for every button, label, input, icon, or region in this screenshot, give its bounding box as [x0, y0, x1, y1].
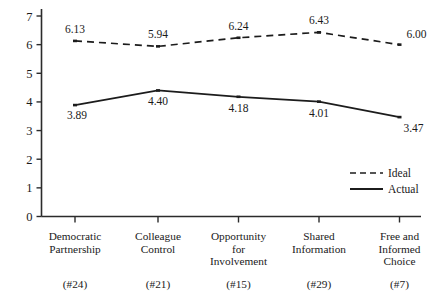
data-point: [398, 43, 402, 46]
data-point: [237, 95, 241, 98]
data-label: 3.89: [67, 109, 87, 121]
y-tick-label: 3: [26, 124, 32, 138]
data-point: [73, 104, 77, 107]
category-count: (#7): [390, 278, 409, 291]
category-label: Involvement: [210, 255, 268, 267]
category-label: Information: [292, 243, 346, 255]
y-tick-label: 7: [26, 10, 32, 24]
y-tick-label: 5: [26, 67, 32, 81]
category-label: Democratic: [49, 230, 102, 242]
y-tick-label: 6: [26, 38, 32, 52]
category-label: for: [232, 243, 245, 255]
category-count: (#29): [307, 278, 332, 291]
y-tick-group: 01234567: [26, 10, 41, 225]
line-chart: 01234567 6.135.946.246.436.003.894.404.1…: [0, 0, 434, 299]
category-label: Informed: [378, 243, 420, 255]
data-label: 3.47: [403, 122, 423, 134]
data-label-group: 6.135.946.246.436.003.894.404.184.013.47: [65, 14, 427, 134]
data-label: 6.43: [309, 14, 329, 26]
data-label: 4.18: [228, 102, 248, 114]
data-label: 6.13: [65, 23, 85, 35]
legend-label-actual: Actual: [388, 183, 419, 195]
legend-label-ideal: Ideal: [388, 167, 411, 179]
category-label-group: DemocraticPartnership(#24)ColleagueContr…: [49, 230, 421, 291]
chart-legend: IdealActual: [350, 167, 419, 195]
data-point: [73, 40, 77, 43]
data-label: 5.94: [148, 28, 168, 40]
data-point: [156, 89, 160, 92]
chart-container: 01234567 6.135.946.246.436.003.894.404.1…: [0, 0, 434, 299]
x-tick-group: [75, 217, 400, 223]
category-label: Colleague: [135, 230, 181, 242]
data-label: 6.24: [228, 20, 248, 32]
y-axis: 01234567: [26, 9, 41, 224]
x-axis: [42, 217, 422, 223]
data-point: [156, 45, 160, 48]
data-point: [237, 36, 241, 39]
category-label: Control: [141, 243, 176, 255]
y-tick-label: 1: [26, 181, 32, 195]
category-count: (#15): [226, 278, 251, 291]
category-label: Shared: [303, 230, 335, 242]
data-label: 6.00: [406, 28, 426, 40]
data-label: 4.40: [148, 95, 168, 107]
data-point: [317, 31, 321, 34]
data-point: [398, 116, 402, 119]
category-label: Choice: [384, 255, 416, 267]
y-tick-label: 4: [26, 95, 33, 109]
category-label: Free and: [380, 230, 420, 242]
category-count: (#24): [63, 278, 88, 291]
y-tick-label: 0: [26, 210, 32, 224]
category-count: (#21): [146, 278, 171, 291]
category-label: Opportunity: [211, 230, 267, 242]
category-label: Partnership: [49, 243, 101, 255]
data-label: 4.01: [309, 107, 329, 119]
data-point: [317, 100, 321, 103]
y-tick-label: 2: [26, 153, 32, 167]
series-line-ideal: [75, 32, 400, 46]
